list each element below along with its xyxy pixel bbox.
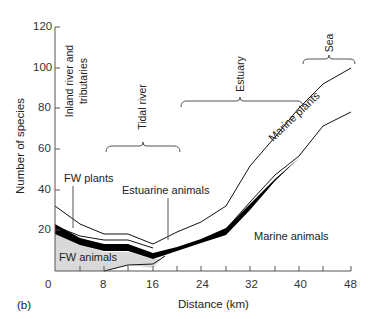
chart: 120 100 80 60 40 20 0 8 16 24 32 40 48 D… (0, 0, 369, 319)
inland-label-line1: Inland river and (63, 45, 75, 117)
x-tick-0: 0 (45, 278, 51, 290)
x-tick-16: 16 (146, 278, 159, 290)
x-tick-24: 24 (196, 278, 209, 290)
x-tick-32: 32 (245, 278, 258, 290)
plot-area (0, 0, 369, 319)
sea-brace (303, 55, 355, 64)
y-ticks (55, 27, 60, 230)
panel-label: (b) (17, 299, 31, 311)
x-axis-label: Distance (km) (178, 298, 249, 310)
y-tick-80: 80 (38, 101, 51, 113)
y-tick-60: 60 (38, 142, 51, 154)
x-tick-8: 8 (100, 278, 106, 290)
fw-plants-label: FW plants (64, 172, 114, 184)
sea-label: Sea (323, 34, 335, 53)
estuary-brace (181, 97, 303, 107)
x-tick-48: 48 (344, 278, 357, 290)
tidal-river-brace (106, 142, 180, 152)
inland-label-line2: tributaries (77, 58, 89, 104)
y-tick-20: 20 (38, 223, 51, 235)
y-axis-label: Number of species (14, 98, 26, 194)
fw-animals-label: FW animals (59, 251, 117, 263)
estuarine-animals-label: Estuarine animals (122, 184, 209, 196)
y-tick-100: 100 (33, 61, 52, 73)
tidal-river-label: Tidal river (136, 84, 148, 130)
estuary-label: Estuary (234, 56, 246, 92)
y-tick-120: 120 (33, 20, 52, 32)
marine-plants-upper (153, 68, 351, 244)
x-tick-40: 40 (294, 278, 307, 290)
marine-animals-label: Marine animals (254, 230, 329, 242)
y-tick-40: 40 (38, 183, 51, 195)
